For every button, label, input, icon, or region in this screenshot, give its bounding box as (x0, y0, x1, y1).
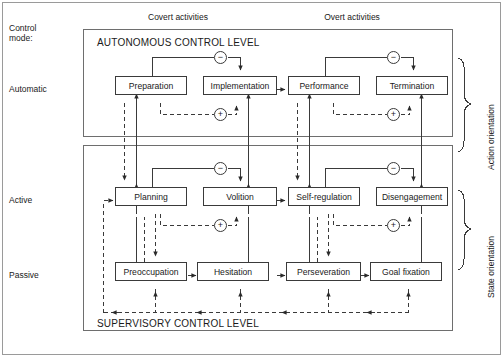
mode-label-active: Active (9, 196, 32, 206)
node-label: Self-regulation (296, 192, 351, 202)
level-label-supervisory: SUPERVISORY CONTROL LEVEL (97, 318, 259, 329)
overt-activities-label: Overt activities (292, 13, 412, 23)
operator-symbol: − (218, 164, 223, 173)
mode-label-passive: Passive (9, 271, 39, 281)
operator-plus-automatic-right: + (387, 108, 400, 121)
node-label: Implementation (211, 81, 270, 91)
node-label: Disengagement (382, 192, 442, 202)
diagram-lines (0, 0, 503, 357)
node-label: Goal fixation (382, 267, 430, 277)
control-mode-label: Control mode: (9, 24, 36, 44)
operator-plus-automatic-left: + (214, 108, 227, 121)
node-label: Performance (299, 81, 348, 91)
node-label: Volition (226, 192, 254, 202)
node-label: Hesitation (214, 267, 252, 277)
level-label-autonomous: AUTONOMOUS CONTROL LEVEL (97, 37, 260, 48)
node-planning[interactable]: Planning (115, 187, 187, 206)
operator-minus-automatic-left: − (214, 51, 227, 64)
node-preparation[interactable]: Preparation (115, 76, 187, 95)
operator-minus-active-left: − (214, 162, 227, 175)
operator-plus-active-right: + (387, 219, 400, 232)
operator-symbol: + (218, 221, 223, 230)
node-hesitation[interactable]: Hesitation (197, 262, 269, 281)
operator-symbol: − (218, 53, 223, 62)
mode-label-automatic: Automatic (9, 85, 47, 95)
node-volition[interactable]: Volition (203, 187, 277, 206)
node-implementation[interactable]: Implementation (203, 76, 277, 95)
operator-symbol: + (391, 221, 396, 230)
operator-plus-active-left: + (214, 219, 227, 232)
node-label: Termination (390, 81, 434, 91)
diagram-canvas: Control mode: Covert activities Overt ac… (0, 0, 503, 357)
covert-activities-label: Covert activities (118, 13, 238, 23)
operator-minus-active-right: − (387, 162, 400, 175)
operator-symbol: + (391, 110, 396, 119)
operator-minus-automatic-right: − (387, 51, 400, 64)
node-label: Perseveration (297, 267, 350, 277)
node-termination[interactable]: Termination (376, 76, 448, 95)
node-preoccupation[interactable]: Preoccupation (115, 262, 187, 281)
orientation-label-action: Action orientation (486, 104, 496, 170)
node-performance[interactable]: Performance (288, 76, 360, 95)
orientation-label-state: State orientation (486, 236, 496, 298)
operator-symbol: − (391, 53, 396, 62)
node-goal-fixation[interactable]: Goal fixation (370, 262, 442, 281)
node-self-regulation[interactable]: Self-regulation (288, 187, 360, 206)
node-label: Preoccupation (124, 267, 179, 277)
node-perseveration[interactable]: Perseveration (286, 262, 361, 281)
node-disengagement[interactable]: Disengagement (376, 187, 448, 206)
node-label: Preparation (129, 81, 173, 91)
node-label: Planning (134, 192, 167, 202)
operator-symbol: − (391, 164, 396, 173)
operator-symbol: + (218, 110, 223, 119)
